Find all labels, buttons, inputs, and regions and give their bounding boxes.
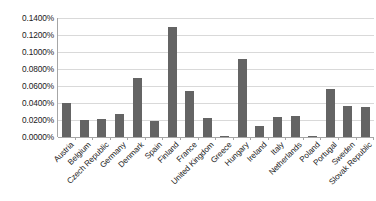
- bar[interactable]: [273, 117, 282, 137]
- bar-slot: [269, 18, 287, 137]
- bar[interactable]: [150, 121, 159, 137]
- bar-slot: [339, 18, 357, 137]
- bar-slot: [304, 18, 322, 137]
- bar-slot: [251, 18, 269, 137]
- y-axis-tick-label: 0.0000%: [22, 133, 54, 141]
- y-axis-tick-label: 0.1200%: [22, 31, 54, 39]
- bar[interactable]: [97, 119, 106, 137]
- bar[interactable]: [255, 126, 264, 137]
- bar-slot: [76, 18, 94, 137]
- bar-slot: [321, 18, 339, 137]
- bar-chart-figure: 0.1400%0.1200%0.1000%0.0800%0.0600%0.040…: [0, 0, 376, 201]
- y-axis-tick-label: 0.0600%: [22, 82, 54, 90]
- y-axis-tick-label: 0.1400%: [22, 14, 54, 22]
- bar-slot: [128, 18, 146, 137]
- bar[interactable]: [185, 91, 194, 137]
- bar[interactable]: [361, 107, 370, 137]
- bar-slot: [93, 18, 111, 137]
- bar[interactable]: [343, 106, 352, 137]
- bar[interactable]: [168, 27, 177, 138]
- bar-slot: [234, 18, 252, 137]
- bar[interactable]: [203, 118, 212, 137]
- bar-slot: [58, 18, 76, 137]
- bar[interactable]: [115, 114, 124, 137]
- bar-series: [58, 18, 374, 137]
- bar[interactable]: [80, 120, 89, 137]
- bar-slot: [111, 18, 129, 137]
- bar-slot: [216, 18, 234, 137]
- y-axis-tick-label: 0.1000%: [22, 48, 54, 56]
- bar[interactable]: [133, 78, 142, 137]
- bar-slot: [181, 18, 199, 137]
- bar[interactable]: [238, 59, 247, 137]
- bar-slot: [357, 18, 375, 137]
- y-axis: 0.1400%0.1200%0.1000%0.0800%0.0600%0.040…: [0, 0, 57, 201]
- plot-area: [57, 18, 374, 137]
- bar[interactable]: [291, 116, 300, 137]
- bar-slot: [146, 18, 164, 137]
- bar[interactable]: [326, 89, 335, 137]
- y-axis-tick-label: 0.0200%: [22, 116, 54, 124]
- bar-slot: [286, 18, 304, 137]
- bar-slot: [163, 18, 181, 137]
- bar[interactable]: [62, 103, 71, 137]
- bar-slot: [199, 18, 217, 137]
- y-axis-tick-label: 0.0400%: [22, 99, 54, 107]
- y-axis-tick-label: 0.0800%: [22, 65, 54, 73]
- x-axis: AustriaBelgiumCzech RepublicGermanyDenma…: [57, 141, 373, 201]
